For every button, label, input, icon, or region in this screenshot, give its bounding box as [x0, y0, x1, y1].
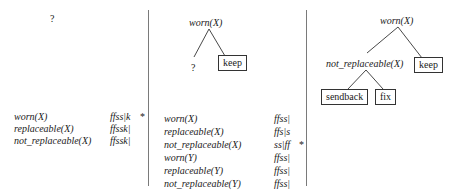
row-state: ffs|s: [274, 126, 290, 138]
row-label: worn(X): [164, 113, 197, 125]
leaf-fix: fix: [375, 89, 396, 105]
row-label: not_replaceable(X): [14, 135, 91, 147]
row-state: ffss|: [274, 113, 290, 125]
tree-root-node: worn(X): [189, 17, 222, 28]
row-label: worn(Y): [164, 152, 197, 164]
row-label: replaceable(X): [164, 126, 224, 138]
tree-left-unknown: ?: [191, 62, 195, 73]
tree-internal-node: not_replaceable(X): [326, 58, 403, 69]
row-state: ffssk|: [110, 123, 131, 135]
row-label: not_replaceable(Y): [164, 178, 241, 190]
row-state: ffss|k: [110, 111, 131, 123]
tree-root-node: worn(X): [380, 15, 413, 26]
leaf-sendback: sendback: [321, 89, 368, 105]
tree-root-unknown: ?: [50, 13, 54, 24]
current-row-marker: *: [140, 111, 145, 122]
leaf-keep: keep: [414, 57, 443, 73]
leaf-keep: keep: [218, 55, 247, 71]
row-label: replaceable(X): [14, 123, 74, 135]
row-state: ffss|: [274, 152, 290, 164]
row-label: worn(X): [14, 111, 47, 123]
row-state: ffssk|: [110, 135, 131, 147]
row-state: ffss|: [274, 178, 290, 190]
row-label: not_replaceable(X): [164, 139, 241, 151]
row-state: ffss|: [274, 165, 290, 177]
current-row-marker: *: [299, 139, 304, 150]
row-state: ss|ff: [274, 139, 290, 151]
row-label: replaceable(Y): [164, 165, 223, 177]
